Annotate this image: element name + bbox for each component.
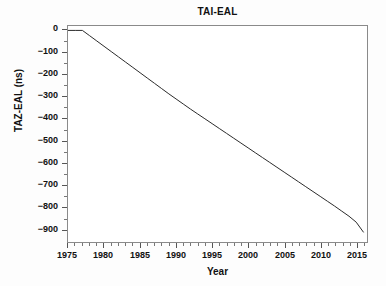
x-minor-tick-mark (147, 243, 148, 246)
x-minor-tick-mark (364, 243, 365, 246)
x-minor-tick-mark (227, 243, 228, 246)
x-minor-tick-mark (89, 243, 90, 246)
x-minor-tick-mark (125, 243, 126, 246)
x-axis-label: Year (67, 266, 368, 277)
x-minor-tick-mark (314, 243, 315, 246)
x-tick-mark (212, 243, 213, 248)
x-minor-tick-mark (343, 243, 344, 246)
x-tick-mark (285, 243, 286, 248)
x-minor-tick-mark (169, 243, 170, 246)
x-tick-label: 2005 (265, 250, 305, 260)
x-minor-tick-mark (270, 243, 271, 246)
x-tick-label: 1980 (83, 250, 123, 260)
x-minor-tick-mark (328, 243, 329, 246)
x-tick-label: 1985 (120, 250, 160, 260)
x-minor-tick-mark (118, 243, 119, 246)
x-minor-tick-mark (96, 243, 97, 246)
x-tick-label: 1990 (156, 250, 196, 260)
x-minor-tick-mark (241, 243, 242, 246)
x-tick-mark (248, 243, 249, 248)
x-tick-mark (176, 243, 177, 248)
x-minor-tick-mark (111, 243, 112, 246)
x-minor-tick-mark (263, 243, 264, 246)
x-minor-tick-mark (82, 243, 83, 246)
x-minor-tick-mark (350, 243, 351, 246)
x-tick-mark (357, 243, 358, 248)
x-minor-tick-mark (234, 243, 235, 246)
x-tick-mark (321, 243, 322, 248)
x-minor-tick-mark (161, 243, 162, 246)
x-minor-tick-mark (256, 243, 257, 246)
x-tick-label: 1995 (192, 250, 232, 260)
x-minor-tick-mark (219, 243, 220, 246)
x-minor-tick-mark (190, 243, 191, 246)
x-axis-ticks: 197519801985199019952000200520102015 (0, 0, 386, 286)
chart-figure: TAI-EAL TAZ-EAL (ns) 0−100−200−300−400−5… (0, 0, 386, 286)
x-tick-label: 2015 (337, 250, 377, 260)
x-minor-tick-mark (299, 243, 300, 246)
x-minor-tick-mark (154, 243, 155, 246)
x-minor-tick-mark (183, 243, 184, 246)
x-minor-tick-mark (205, 243, 206, 246)
x-tick-mark (140, 243, 141, 248)
x-minor-tick-mark (277, 243, 278, 246)
x-minor-tick-mark (292, 243, 293, 246)
x-tick-label: 2010 (301, 250, 341, 260)
x-minor-tick-mark (74, 243, 75, 246)
x-tick-label: 1975 (47, 250, 87, 260)
x-minor-tick-mark (335, 243, 336, 246)
x-tick-label: 2000 (228, 250, 268, 260)
x-minor-tick-mark (198, 243, 199, 246)
x-tick-mark (67, 243, 68, 248)
x-minor-tick-mark (132, 243, 133, 246)
x-tick-mark (103, 243, 104, 248)
x-minor-tick-mark (306, 243, 307, 246)
